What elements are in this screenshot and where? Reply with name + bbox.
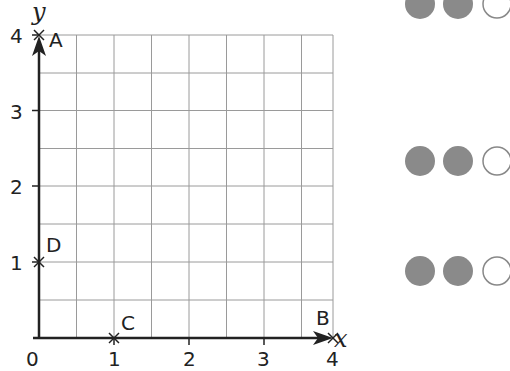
tick-marks: [32, 35, 264, 345]
counter-row-3: [405, 256, 510, 286]
grid: [39, 35, 333, 338]
point-label-C: C: [121, 311, 135, 335]
point-label-A: A: [49, 28, 63, 52]
x-tick-0: 0: [26, 347, 39, 371]
filled-counter: [405, 146, 435, 176]
filled-counter: [443, 0, 473, 19]
x-axis-label: x: [334, 325, 348, 353]
y-tick-3: 3: [10, 100, 23, 124]
x-tick-2: 2: [183, 347, 196, 371]
filled-counter: [405, 0, 435, 19]
point-label-B: B: [316, 306, 330, 330]
filled-counter: [405, 256, 435, 286]
coordinate-diagram: 0 1 2 3 4 1 2 3 4 y x A B C D: [0, 0, 510, 371]
x-tick-1: 1: [108, 347, 121, 371]
y-tick-4: 4: [10, 24, 23, 48]
filled-counter: [443, 146, 473, 176]
empty-counter: [483, 0, 510, 18]
y-tick-2: 2: [10, 175, 23, 199]
counter-row-1: [405, 0, 510, 19]
empty-counter: [483, 257, 510, 285]
counter-row-2: [405, 146, 510, 176]
empty-counter: [483, 147, 510, 175]
point-label-D: D: [46, 233, 61, 257]
y-tick-1: 1: [10, 251, 23, 275]
y-axis-label: y: [31, 0, 46, 26]
x-tick-3: 3: [257, 347, 270, 371]
filled-counter: [443, 256, 473, 286]
